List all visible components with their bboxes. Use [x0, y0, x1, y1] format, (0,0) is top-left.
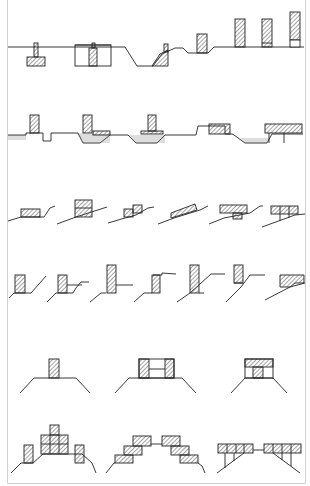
diagram-plate	[0, 0, 310, 486]
row-3-slope-blocks	[8, 200, 305, 227]
row-5-embankment-crests	[20, 359, 287, 393]
frame	[8, 0, 306, 484]
row-1-sections	[8, 12, 304, 66]
row-6-stepped-embankments	[11, 425, 301, 473]
diagram-canvas	[0, 0, 310, 486]
row-4-retaining-walls	[9, 265, 305, 302]
row-2-channel-sections	[8, 115, 303, 143]
